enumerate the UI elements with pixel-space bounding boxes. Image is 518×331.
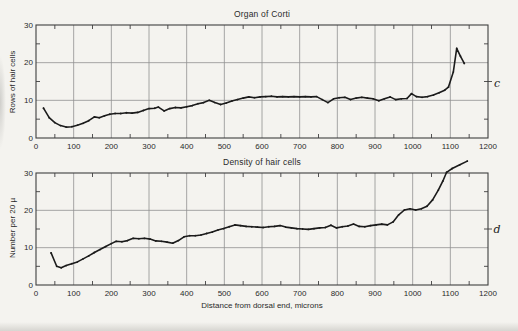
svg-text:700: 700: [293, 289, 307, 298]
chart-c-y-axis-label: Rows of hair cells: [8, 51, 17, 114]
svg-text:800: 800: [331, 289, 345, 298]
chart-c-title: Organ of Corti: [132, 9, 392, 19]
panel-letter-c: c: [494, 77, 500, 90]
svg-text:900: 900: [368, 289, 382, 298]
svg-text:200: 200: [105, 289, 119, 298]
svg-text:200: 200: [105, 142, 119, 151]
svg-text:0: 0: [29, 281, 34, 290]
svg-text:10: 10: [24, 243, 33, 252]
svg-text:1200: 1200: [479, 142, 497, 151]
svg-text:400: 400: [180, 142, 194, 151]
panel-letter-d: d: [493, 223, 500, 236]
svg-text:1000: 1000: [404, 289, 422, 298]
svg-text:500: 500: [218, 289, 232, 298]
svg-text:0: 0: [29, 134, 34, 143]
svg-text:300: 300: [142, 289, 156, 298]
svg-text:100: 100: [67, 289, 81, 298]
svg-text:900: 900: [368, 142, 382, 151]
svg-text:1100: 1100: [442, 142, 460, 151]
svg-text:300: 300: [142, 142, 156, 151]
svg-text:0: 0: [34, 142, 39, 151]
svg-text:700: 700: [293, 142, 307, 151]
svg-text:30: 30: [24, 169, 33, 178]
svg-text:30: 30: [24, 21, 33, 30]
chart-d-title: Density of hair cells: [132, 157, 392, 167]
x-axis-label: Distance from dorsal end, microns: [201, 301, 322, 310]
svg-text:20: 20: [24, 206, 33, 215]
scanned-figure-page: 0100200300400500600700800900100011001200…: [0, 0, 518, 331]
svg-text:800: 800: [331, 142, 345, 151]
chart-d-y-axis-label: Number per 20 µ: [8, 198, 17, 258]
svg-text:1200: 1200: [479, 289, 497, 298]
svg-text:600: 600: [255, 142, 269, 151]
svg-text:600: 600: [255, 289, 269, 298]
svg-text:100: 100: [67, 142, 81, 151]
svg-text:500: 500: [218, 142, 232, 151]
svg-text:1000: 1000: [404, 142, 422, 151]
svg-text:1100: 1100: [442, 289, 460, 298]
svg-text:400: 400: [180, 289, 194, 298]
svg-text:20: 20: [24, 58, 33, 67]
svg-text:10: 10: [24, 96, 33, 105]
svg-text:0: 0: [34, 289, 39, 298]
